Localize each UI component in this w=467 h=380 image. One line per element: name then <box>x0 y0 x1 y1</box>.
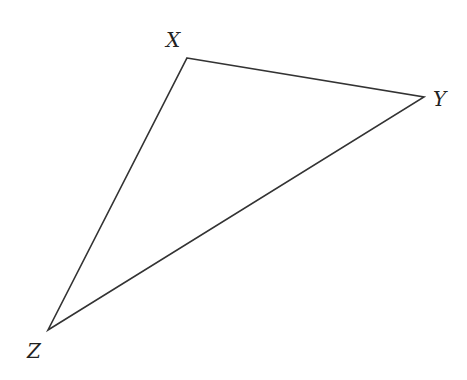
vertex-label-y: Y <box>433 87 448 111</box>
vertex-label-z: Z <box>26 339 42 363</box>
vertex-label-x: X <box>164 28 181 52</box>
triangle-diagram: X Y Z <box>0 0 467 380</box>
triangle-xyz <box>48 58 424 330</box>
